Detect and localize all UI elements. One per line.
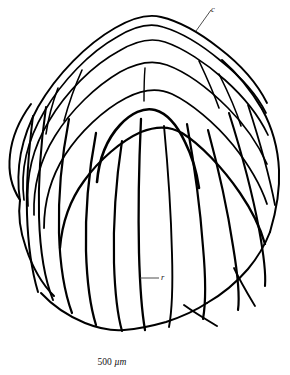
scale-unit: µm	[114, 357, 126, 367]
scale-value: 500	[98, 357, 112, 367]
scale-bar-caption: 500 µm	[0, 357, 224, 367]
label-concentric-c: c	[211, 5, 215, 14]
label-radial-r: r	[161, 273, 164, 282]
leader-line-concentric	[196, 10, 211, 31]
shell-drawing	[0, 0, 290, 375]
shell-figure: c r 500 µm	[0, 0, 290, 375]
